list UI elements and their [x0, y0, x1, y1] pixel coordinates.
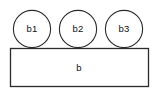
circle-b1-label: b1	[27, 23, 38, 34]
diagram-canvas: b1 b2 b3 b	[0, 0, 162, 93]
circle-b2-label: b2	[73, 23, 84, 34]
diagram-svg: b1 b2 b3 b	[0, 0, 162, 93]
circle-b3-label: b3	[119, 23, 130, 34]
base-rectangle-label: b	[76, 62, 81, 73]
